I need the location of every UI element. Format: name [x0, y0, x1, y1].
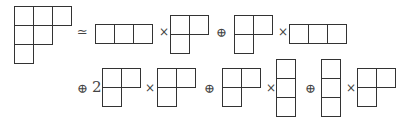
- tableau-cell: [234, 15, 254, 35]
- tableau-cell: [222, 87, 242, 107]
- plus-symbol: ⊕: [216, 26, 227, 39]
- tableau-cell: [95, 24, 115, 44]
- tableau-cell: [189, 15, 209, 35]
- tableau-cell: [222, 68, 242, 88]
- tableau-cell: [157, 68, 177, 88]
- tableau-cell: [321, 97, 341, 117]
- tableau-cell: [121, 68, 141, 88]
- times-symbol: ×: [278, 26, 288, 38]
- times-symbol: ×: [266, 82, 276, 94]
- tableau-cell: [253, 15, 273, 35]
- tableau-cell: [170, 15, 190, 35]
- tableau-cell: [308, 24, 328, 44]
- plus-symbol: ⊕: [305, 82, 316, 95]
- tableau-cell: [170, 34, 190, 54]
- times-symbol: ×: [159, 26, 169, 38]
- tableau-cell: [276, 97, 296, 117]
- tableau-cell: [357, 87, 377, 107]
- coefficient: 2: [92, 80, 102, 95]
- tableau-cell: [276, 59, 296, 79]
- tableau-cell: [114, 24, 134, 44]
- plus-symbol: ⊕: [204, 82, 215, 95]
- tableau-cell: [33, 6, 53, 26]
- tableau-cell: [14, 6, 34, 26]
- plus-symbol: ⊕: [77, 82, 88, 95]
- tableau-cell: [376, 68, 396, 88]
- times-symbol: ×: [346, 82, 356, 94]
- tableau-cell: [289, 24, 309, 44]
- tableau-cell: [102, 68, 122, 88]
- tableau-cell: [14, 25, 34, 45]
- tableau-cell: [176, 68, 196, 88]
- tableau-cell: [327, 24, 347, 44]
- tableau-cell: [357, 68, 377, 88]
- tableau-cell: [276, 78, 296, 98]
- tableau-cell: [321, 59, 341, 79]
- tableau-cell: [241, 68, 261, 88]
- times-symbol: ×: [145, 82, 155, 94]
- tableau-cell: [133, 24, 153, 44]
- tableau-cell: [321, 78, 341, 98]
- tableau-cell: [157, 87, 177, 107]
- tableau-cell: [33, 25, 53, 45]
- isomorphic-symbol: ≃: [77, 25, 88, 38]
- tableau-cell: [234, 34, 254, 54]
- tableau-cell: [102, 87, 122, 107]
- tableau-cell: [52, 6, 72, 26]
- tableau-cell: [14, 44, 34, 64]
